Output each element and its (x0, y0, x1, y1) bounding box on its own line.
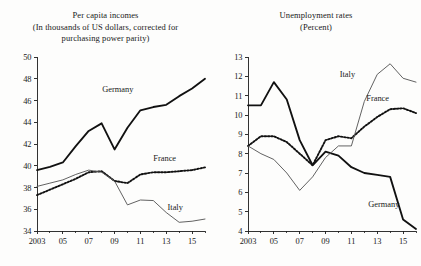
y-axis-tick-label: 38 (23, 184, 31, 193)
x-axis-tick-label: 09 (321, 237, 329, 246)
plot-area-unemployment-rates: 456789101112132003050709111315GermanyFra… (211, 0, 421, 266)
y-axis-tick-label: 13 (234, 53, 242, 62)
y-axis-tick-label: 11 (234, 92, 242, 101)
series-line-italy (37, 170, 205, 222)
x-axis-tick-label: 2003 (240, 237, 257, 246)
series-label-france: France (366, 94, 389, 103)
y-axis-tick-label: 5 (238, 208, 242, 217)
y-axis-tick-label: 6 (238, 188, 242, 197)
x-axis-tick-label: 15 (399, 237, 407, 246)
x-axis-tick-label: 05 (270, 237, 278, 246)
series-label-italy: Italy (340, 70, 356, 79)
x-axis-tick-label: 13 (162, 237, 170, 246)
y-axis-tick-label: 8 (238, 150, 242, 159)
y-axis-tick-label: 40 (23, 162, 31, 171)
series-label-germany: Germany (102, 85, 134, 94)
series-line-france (248, 108, 416, 165)
x-axis-tick-label: 07 (296, 237, 304, 246)
series-label-germany: Germany (368, 200, 400, 209)
figure-container: Per capita incomes (In thousands of US d… (0, 0, 421, 266)
y-axis-tick-label: 4 (238, 227, 243, 236)
series-label-italy: Italy (168, 203, 184, 212)
y-axis-tick-label: 10 (234, 111, 242, 120)
y-axis-tick-label: 46 (23, 97, 31, 106)
series-label-france: France (153, 154, 176, 163)
y-axis-tick-label: 44 (23, 118, 32, 127)
x-axis-tick-label: 2003 (29, 237, 46, 246)
chart-panel-unemployment-rates: Unemployment rates (Percent) 45678910111… (211, 0, 421, 266)
y-axis-tick-label: 9 (238, 130, 242, 139)
y-axis-tick-label: 12 (234, 72, 242, 81)
x-axis-tick-label: 13 (373, 237, 381, 246)
x-axis-tick-label: 11 (347, 237, 355, 246)
y-axis-tick-label: 36 (23, 205, 31, 214)
y-axis-tick-label: 34 (23, 227, 32, 236)
x-axis-tick-label: 09 (110, 237, 118, 246)
plot-area-per-capita-incomes: 3436384042444648502003050709111315German… (0, 0, 211, 266)
series-line-france (37, 167, 205, 195)
x-axis-tick-label: 07 (85, 237, 93, 246)
y-axis-tick-label: 50 (23, 53, 31, 62)
chart-panel-per-capita-incomes: Per capita incomes (In thousands of US d… (0, 0, 211, 266)
y-axis-tick-label: 7 (238, 169, 242, 178)
x-axis-tick-label: 11 (136, 237, 144, 246)
y-axis-tick-label: 42 (23, 140, 31, 149)
y-axis-tick-label: 48 (23, 75, 31, 84)
x-axis-tick-label: 15 (188, 237, 196, 246)
x-axis-tick-label: 05 (59, 237, 67, 246)
